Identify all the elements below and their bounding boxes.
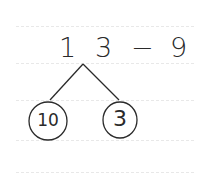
bond-left-value: 10	[30, 112, 66, 129]
left-branch	[50, 64, 83, 100]
number-bond-lines	[0, 0, 202, 175]
bond-right-value: 3	[103, 108, 137, 130]
right-branch	[83, 64, 119, 100]
